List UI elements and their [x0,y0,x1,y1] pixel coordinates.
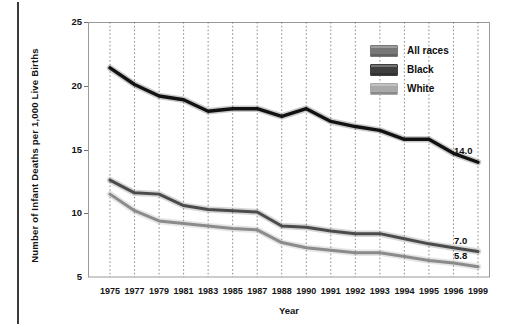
x-tick-label: 1996 [443,286,463,296]
x-tick-label: 1993 [370,286,390,296]
legend-label: White [407,83,434,94]
x-axis-label: Year [88,305,490,316]
y-axis-label: Number of Infant Deaths per 1,000 Live B… [29,26,40,286]
x-tick-label: 1988 [272,286,292,296]
legend-item: All races [370,42,488,59]
y-tick-label: 20 [54,81,82,91]
y-tick-label: 10 [54,208,82,218]
series-line-halo-white [110,194,478,267]
x-tick-label: 1995 [419,286,439,296]
legend-item: White [370,80,488,97]
infant-mortality-chart: Number of Infant Deaths per 1,000 Live B… [0,0,525,330]
series-end-label: 5.8 [454,249,467,260]
y-tick-label: 5 [54,272,82,282]
x-tick-label: 1975 [100,286,120,296]
y-tick-label: 25 [54,17,82,27]
plot-area: All racesBlackWhite [88,22,490,277]
legend-label: Black [407,64,434,75]
series-end-label: 7.0 [454,234,467,245]
x-axis-tick-labels: 1975197719791981198319851987198819901991… [0,286,525,302]
x-tick-label: 1977 [125,286,145,296]
x-tick-label: 1992 [345,286,365,296]
figure-left-rule [17,2,19,324]
legend-swatch-icon [370,64,398,76]
series-line-halo-all-races [110,180,478,251]
legend-item: Black [370,61,488,78]
x-tick-label: 1991 [321,286,341,296]
x-tick-label: 1985 [223,286,243,296]
x-tick-label: 1979 [149,286,169,296]
legend-swatch-icon [370,45,398,57]
x-tick-label: 1990 [296,286,316,296]
series-end-label: 14.0 [454,145,473,156]
y-tick-label: 15 [54,145,82,155]
x-tick-label: 1987 [247,286,267,296]
legend-swatch-icon [370,83,398,95]
x-tick-label: 1983 [198,286,218,296]
y-axis-tick-labels: 252015105 [52,0,82,330]
x-tick-label: 1981 [174,286,194,296]
legend: All racesBlackWhite [370,42,488,99]
x-tick-label: 1994 [394,286,414,296]
legend-label: All races [407,45,449,56]
x-tick-label: 1999 [468,286,488,296]
series-line-white [110,194,478,267]
